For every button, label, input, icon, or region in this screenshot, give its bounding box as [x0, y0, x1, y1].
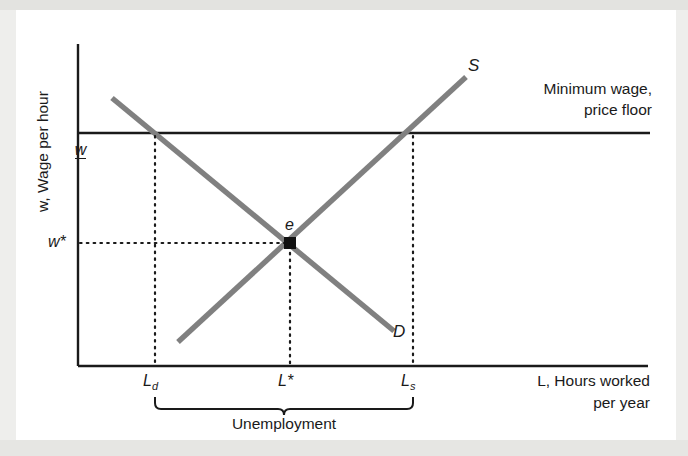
x-axis-title-line2: per year	[455, 394, 650, 412]
y-axis-title: w, Wage per hour	[34, 91, 52, 212]
supply-curve-label: S	[468, 56, 479, 76]
equilibrium-marker	[284, 237, 296, 249]
ld-base: L	[143, 372, 152, 389]
min-wage-annotation-line1: Minimum wage,	[460, 80, 652, 98]
unemployment-brace-label: Unemployment	[155, 415, 413, 433]
min-wage-annotation-line2: price floor	[460, 101, 652, 119]
figure-root: w, Wage per hour L, Hours worked per yea…	[0, 0, 688, 456]
equilibrium-labor-tick-label: L*	[278, 372, 293, 391]
min-wage-tick-label: w	[57, 122, 86, 179]
ls-base: L	[401, 372, 410, 389]
labor-demanded-tick-label: Ld	[143, 372, 158, 393]
ld-sub: d	[152, 380, 158, 392]
equilibrium-wage-tick-label: w*	[48, 233, 66, 252]
x-axis-title-line1: L, Hours worked	[455, 372, 650, 390]
supply-curve	[178, 77, 466, 342]
labor-supplied-tick-label: Ls	[401, 372, 415, 393]
w-bar-text: w	[75, 141, 87, 159]
equilibrium-point-label: e	[285, 216, 294, 235]
demand-curve-label: D	[393, 322, 405, 342]
unemployment-brace	[155, 397, 413, 415]
ls-sub: s	[410, 380, 416, 392]
